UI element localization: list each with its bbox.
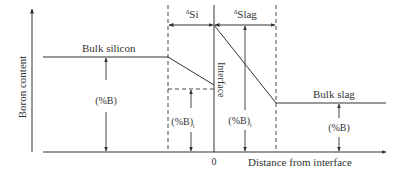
boron-concentration-diagram: Boron content δSi δSlag Bulk silicon Bul… <box>0 0 406 176</box>
bulk-si-conc-label: (%B) <box>95 95 117 107</box>
bulk-slag-label: Bulk slag <box>313 88 355 100</box>
delta-si-label: δSi <box>186 8 199 20</box>
bulk-silicon-label: Bulk silicon <box>82 42 136 54</box>
origin-label: 0 <box>212 156 217 167</box>
bulk-slag-conc-label: (%B) <box>328 122 350 134</box>
interface-si-conc-label: (%B)i <box>171 116 195 129</box>
si-boundary-slope <box>168 57 214 85</box>
interface-label: Interface <box>216 62 227 98</box>
y-axis-label: Boron content <box>16 56 28 119</box>
interface-slag-conc-label: (%B)i <box>228 115 252 128</box>
x-axis-label: Distance from interface <box>248 156 352 168</box>
delta-slag-label: δSlag <box>234 8 257 20</box>
